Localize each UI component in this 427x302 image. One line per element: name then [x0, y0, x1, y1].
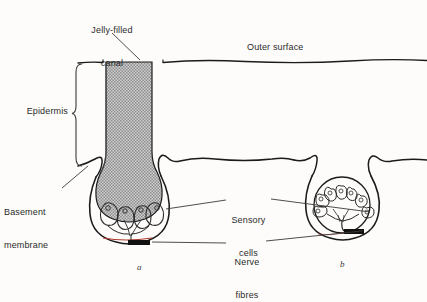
label-basement-membrane: Basement membrane	[4, 185, 48, 273]
panel-caption-b: b	[340, 259, 345, 269]
label-jelly-filled-canal-line1: Jelly-filled	[58, 25, 166, 36]
label-sensory-cells-line1: Sensory	[226, 215, 271, 226]
leader-sensory-cells-left	[166, 200, 226, 209]
label-epidermis: Epidermis	[0, 106, 68, 117]
panel-caption-a: a	[137, 262, 142, 272]
label-nerve-fibres-line1: Nerve	[227, 257, 267, 268]
label-basement-membrane-line2: membrane	[4, 240, 48, 251]
label-basement-membrane-line1: Basement	[4, 207, 48, 218]
label-jelly-filled-canal: Jelly-filled canal	[58, 3, 166, 91]
leader-nerve-fibres-left	[152, 242, 226, 243]
label-nerve-fibres-line2: fibres	[227, 290, 267, 301]
label-outer-surface: Outer surface	[247, 42, 303, 53]
label-jelly-filled-canal-line2: canal	[58, 58, 166, 69]
label-nerve-fibres: Nerve fibres	[227, 235, 267, 302]
sensory-cells-b	[313, 185, 374, 222]
leader-basement-membrane	[62, 166, 88, 188]
